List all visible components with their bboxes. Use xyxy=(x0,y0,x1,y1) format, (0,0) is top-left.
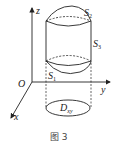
s3-label: S3 xyxy=(93,38,101,50)
y-axis-label: y xyxy=(100,84,106,95)
origin-label: O xyxy=(18,78,25,89)
bottom-ellipse-front xyxy=(46,61,91,66)
x-axis-label: x xyxy=(13,111,19,122)
s2-label: S2 xyxy=(84,7,92,19)
dxy-label: Dxy xyxy=(59,102,73,114)
cylinder-diagram: z O y x S2 S3 S1 Dxy 图 3 xyxy=(0,0,118,147)
s1-label: S1 xyxy=(48,70,56,82)
z-axis-label: z xyxy=(35,5,40,16)
figure-caption: 图 3 xyxy=(50,132,68,142)
bottom-ellipse-back xyxy=(46,56,91,62)
top-ellipse-front xyxy=(46,21,91,26)
